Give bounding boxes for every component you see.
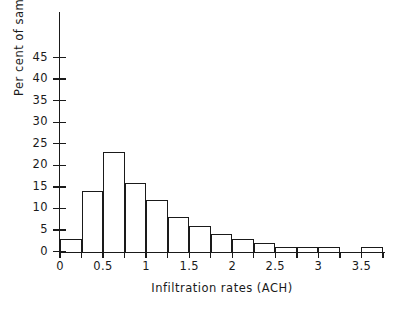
- x-axis-tick: [59, 252, 60, 258]
- y-axis-tick: [53, 229, 66, 230]
- x-axis-tick: [232, 252, 233, 258]
- x-axis-tick: [361, 252, 362, 258]
- y-axis-tick: [53, 122, 66, 123]
- x-axis-tick-label: 3.5: [352, 261, 372, 273]
- x-axis-tick-label: 1: [142, 261, 150, 273]
- histogram-bar: [60, 239, 82, 252]
- y-axis-tick: [53, 57, 66, 58]
- x-axis-tick: [253, 252, 254, 258]
- histogram-bar: [82, 191, 104, 251]
- x-axis-tick-label: 3: [315, 261, 323, 273]
- y-axis-tick-label: 40: [33, 73, 48, 85]
- y-axis-tick: [53, 143, 66, 144]
- histogram-bar: [146, 200, 168, 252]
- histogram-chart: 051015202530354045 00.511.522.533.5 Per …: [0, 0, 410, 309]
- y-axis-tick: [53, 165, 66, 166]
- y-axis-tick-label: 15: [33, 181, 48, 193]
- x-axis-tick: [167, 252, 168, 258]
- y-axis-tick: [53, 208, 66, 209]
- y-axis-tick-label: 35: [33, 95, 48, 107]
- x-axis-tick: [275, 252, 276, 258]
- histogram-bar: [232, 239, 254, 252]
- histogram-bar: [125, 183, 147, 252]
- y-axis-tick-label: 5: [40, 224, 48, 236]
- x-axis-tick-label: 0: [56, 261, 64, 273]
- y-axis-tick-label: 30: [33, 116, 48, 128]
- y-axis-tick: [53, 100, 66, 101]
- histogram-bar: [103, 152, 125, 251]
- x-axis-tick: [124, 252, 125, 258]
- y-axis-tick: [53, 78, 66, 79]
- x-axis-tick: [339, 252, 340, 258]
- histogram-bar: [254, 243, 276, 252]
- x-axis-tick: [318, 252, 319, 258]
- histogram-bar: [168, 217, 190, 251]
- x-axis-tick: [210, 252, 211, 258]
- y-axis-tick-label: 0: [40, 246, 48, 258]
- x-axis-tick: [81, 252, 82, 258]
- x-axis-tick-label: 2.5: [266, 261, 286, 273]
- x-axis-tick-label: 1.5: [179, 261, 199, 273]
- y-axis-tick-label: 25: [33, 138, 48, 150]
- x-axis-tick: [145, 252, 146, 258]
- y-axis-tick-label: 45: [33, 52, 48, 64]
- y-axis-tick-label: 20: [33, 159, 48, 171]
- x-axis-tick: [102, 252, 103, 258]
- x-axis-tick: [382, 252, 383, 258]
- y-axis-tick: [53, 186, 66, 187]
- x-axis-tick-label: 0.5: [93, 261, 113, 273]
- x-axis-tick: [189, 252, 190, 258]
- x-axis-title: Infiltration rates (ACH): [59, 283, 385, 295]
- y-axis-tick-label: 10: [33, 202, 48, 214]
- x-axis-tick-label: 2: [228, 261, 236, 273]
- x-axis-line: [59, 252, 385, 253]
- y-axis-title: Per cent of sample: [14, 0, 26, 96]
- histogram-bar: [211, 234, 233, 251]
- y-axis-line: [59, 12, 60, 252]
- x-axis-tick: [296, 252, 297, 258]
- histogram-bar: [189, 226, 211, 252]
